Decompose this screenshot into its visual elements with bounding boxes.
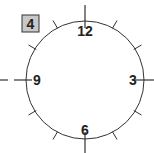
- clock-number-6: 6: [81, 122, 89, 138]
- clock-number-12: 12: [77, 23, 93, 39]
- clock-number-3: 3: [129, 72, 137, 88]
- clock-number-9: 9: [33, 72, 41, 88]
- clock-diagram: 4 12 3 6 9: [0, 0, 154, 153]
- problem-number-badge: 4: [22, 15, 39, 32]
- problem-number: 4: [27, 16, 35, 32]
